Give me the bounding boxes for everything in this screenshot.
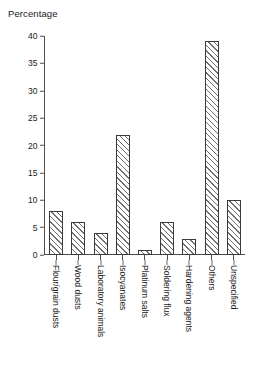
bar-slot <box>67 36 89 255</box>
y-axis-tick: 5 <box>33 223 44 232</box>
bar-slot <box>201 36 223 255</box>
bar <box>160 222 174 255</box>
x-axis-label: Isocyanates <box>118 265 127 310</box>
y-axis-tick: 15 <box>28 169 44 178</box>
x-axis-label-slot: Unspecified <box>223 260 245 365</box>
bar <box>116 135 130 255</box>
y-axis-tick-label: 10 <box>28 196 37 205</box>
x-axis-label: Soldering flux <box>162 265 171 317</box>
bar <box>94 233 108 255</box>
x-axis-label-slot: Hardening agents <box>178 260 200 365</box>
y-axis-ticks: 0510152025303540 <box>0 36 44 255</box>
bar <box>49 211 63 255</box>
x-axis-label: Others <box>207 265 216 291</box>
x-axis-label-slot: Isocyanates <box>112 260 134 365</box>
y-axis-tick: 10 <box>28 196 44 205</box>
y-axis-tick-label: 35 <box>28 59 37 68</box>
y-axis-tick: 40 <box>28 32 44 41</box>
x-axis-label: Laboratory animals <box>96 265 105 337</box>
x-axis-label: Flour/grain dusts <box>51 265 60 328</box>
y-axis-tick-label: 0 <box>33 251 38 260</box>
y-axis-title: Percentage <box>8 8 58 19</box>
x-axis-label-slot: Flour/grain dusts <box>45 260 67 365</box>
bar-slot <box>89 36 111 255</box>
y-axis-tick-label: 30 <box>28 87 37 96</box>
bar <box>71 222 85 255</box>
bar-slot <box>178 36 200 255</box>
y-axis-tick: 35 <box>28 59 44 68</box>
x-axis-label-slot: Soldering flux <box>156 260 178 365</box>
x-axis-label: Hardening agents <box>184 265 193 332</box>
bar-slot <box>45 36 67 255</box>
bar-slot <box>223 36 245 255</box>
bar-series <box>45 36 245 255</box>
y-axis-tick-label: 20 <box>28 141 37 150</box>
y-axis-tick-label: 15 <box>28 169 37 178</box>
y-axis-tick: 20 <box>28 141 44 150</box>
bar-chart: Percentage 0510152025303540 Flour/grain … <box>0 0 276 368</box>
x-axis-labels: Flour/grain dustsWood dustsLaboratory an… <box>45 260 245 365</box>
x-axis-label: Unspecified <box>229 265 238 309</box>
bar <box>182 239 196 255</box>
bar <box>205 41 219 255</box>
x-axis-label: Wood dusts <box>73 265 82 310</box>
bar-slot <box>112 36 134 255</box>
y-axis-tick: 25 <box>28 114 44 123</box>
y-axis-tick-label: 40 <box>28 32 37 41</box>
bar <box>227 200 241 255</box>
bar-slot <box>156 36 178 255</box>
x-axis-label-slot: Platinum salts <box>134 260 156 365</box>
y-axis-tick: 0 <box>33 251 44 260</box>
bar-slot <box>134 36 156 255</box>
x-axis-label-slot: Laboratory animals <box>89 260 111 365</box>
x-axis-label-slot: Others <box>201 260 223 365</box>
x-axis-label-slot: Wood dusts <box>67 260 89 365</box>
y-axis-tick: 30 <box>28 87 44 96</box>
y-axis-tick-label: 5 <box>33 223 38 232</box>
x-axis-label: Platinum salts <box>140 265 149 318</box>
y-axis-tick-label: 25 <box>28 114 37 123</box>
